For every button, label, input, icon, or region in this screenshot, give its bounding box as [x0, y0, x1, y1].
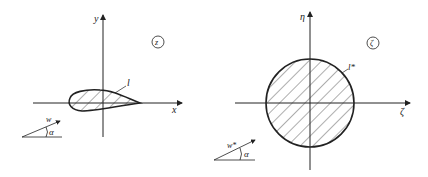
contour-label: l — [127, 77, 130, 88]
flow-velocity-label: w — [46, 115, 52, 124]
contour-label: l* — [348, 62, 356, 72]
angle-label: α — [244, 149, 249, 159]
x-axis-label: x — [171, 104, 177, 115]
y-axis-label: y — [93, 13, 99, 24]
flow-direction-indicator: w α — [22, 115, 62, 137]
conformal-mapping-diagram: y x l z w α η ζ l* ζ w* α — [0, 0, 428, 177]
flow-direction-indicator: w* α — [214, 140, 255, 160]
plane-indicator-label: z — [154, 38, 159, 47]
zeta-axis-label: ζ — [400, 106, 405, 118]
airfoil-contour — [69, 90, 140, 111]
angle-label: α — [49, 127, 54, 137]
z-plane-panel: y x l z w α — [22, 13, 182, 137]
eta-axis-label: η — [300, 11, 305, 22]
contour-label-leader — [115, 86, 126, 93]
flow-velocity-label: w* — [227, 141, 236, 150]
zeta-plane-panel: η ζ l* ζ w* α — [214, 11, 410, 170]
circle-contour — [266, 59, 354, 147]
plane-indicator-label: ζ — [370, 39, 374, 48]
